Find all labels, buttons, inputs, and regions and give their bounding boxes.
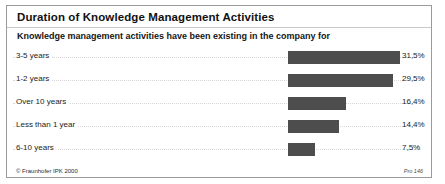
copyright-notice: © Fraunhofer IPK 2000 bbox=[16, 168, 78, 174]
value-label: 31,5% bbox=[402, 51, 425, 60]
chart-row: 1-2 years29,5% bbox=[7, 73, 431, 96]
chart-row: 3-5 years31,5% bbox=[7, 50, 431, 73]
category-label: Over 10 years bbox=[16, 97, 69, 106]
source-reference: Pro 146 bbox=[404, 168, 423, 174]
bar bbox=[288, 97, 346, 110]
page-title: Duration of Knowledge Management Activit… bbox=[17, 11, 275, 23]
bar-chart-plot-area: 3-5 years31,5%1-2 years29,5%Over 10 year… bbox=[7, 50, 431, 177]
category-label: 6-10 years bbox=[16, 143, 57, 152]
category-label: 3-5 years bbox=[16, 51, 52, 60]
chart-header: Duration of Knowledge Management Activit… bbox=[7, 6, 431, 46]
bar bbox=[288, 143, 315, 156]
bar bbox=[288, 120, 339, 133]
category-label: 1-2 years bbox=[16, 74, 52, 83]
value-label: 29,5% bbox=[402, 74, 425, 83]
chart-row: Less than 1 year14,4% bbox=[7, 119, 431, 142]
title-divider bbox=[7, 27, 431, 28]
chart-slide: Duration of Knowledge Management Activit… bbox=[6, 5, 432, 178]
value-label: 14,4% bbox=[402, 120, 425, 129]
chart-row: 6-10 years7,5% bbox=[7, 142, 431, 165]
gridline bbox=[13, 103, 421, 105]
value-label: 16,4% bbox=[402, 97, 425, 106]
gridline bbox=[13, 149, 421, 151]
chart-row: Over 10 years16,4% bbox=[7, 96, 431, 119]
bar bbox=[288, 74, 393, 87]
category-label: Less than 1 year bbox=[16, 120, 78, 129]
bar bbox=[288, 51, 400, 64]
value-label: 7,5% bbox=[402, 143, 420, 152]
chart-subtitle: Knowledge management activities have bee… bbox=[17, 31, 330, 41]
